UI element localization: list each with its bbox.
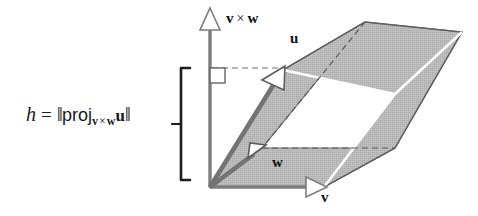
formula-variable: h — [26, 103, 36, 125]
height-bracket — [181, 68, 190, 180]
label-cross-product-times: × — [234, 11, 248, 26]
vector-projection-figure: h=‖projv×wu‖ v×w u w v — [0, 0, 478, 216]
label-vector-v: v — [321, 190, 329, 205]
formula-close-norm: ‖ — [125, 101, 130, 126]
formula-subscript: v×w — [92, 114, 115, 128]
formula-equals: = — [36, 104, 57, 125]
formula-projected-vector: u — [115, 106, 124, 125]
label-cross-product: v×w — [226, 11, 258, 26]
label-vector-w: w — [272, 155, 283, 170]
formula-subscript-times: × — [98, 114, 107, 128]
label-vector-u: u — [290, 31, 298, 46]
label-cross-product-w: w — [247, 10, 258, 26]
height-formula: h=‖projv×wu‖ — [26, 103, 130, 127]
parallelepiped-solid — [210, 22, 462, 187]
axis-cross-product-arrowhead — [200, 8, 220, 30]
label-cross-product-v: v — [226, 10, 234, 26]
right-angle-marker — [210, 68, 225, 83]
formula-proj-operator: proj — [62, 105, 92, 125]
